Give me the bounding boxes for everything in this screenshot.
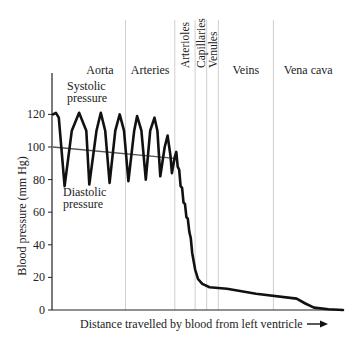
y-tick-label: 100 <box>27 140 45 154</box>
systolic-label-line2: pressure <box>67 91 107 105</box>
region-label: Veins <box>233 63 260 77</box>
y-tick-label: 120 <box>27 107 45 121</box>
y-ticks: 020406080100120 <box>27 107 52 317</box>
y-tick-label: 0 <box>39 303 45 317</box>
blood-pressure-curve <box>53 113 343 310</box>
region-labels: AortaArteriesArteriolesCapillariesVenule… <box>86 18 333 77</box>
region-label: Arteries <box>131 63 170 77</box>
diastolic-label-line2: pressure <box>63 197 103 211</box>
chart-svg: AortaArteriesArteriolesCapillariesVenule… <box>0 0 359 343</box>
x-axis-label: Distance travelled by blood from left ve… <box>80 317 303 331</box>
y-tick-label: 40 <box>33 238 45 252</box>
region-label: Aorta <box>86 63 114 77</box>
blood-pressure-chart: AortaArteriesArteriolesCapillariesVenule… <box>0 0 359 343</box>
y-axis-label: Blood pressure (mm Hg) <box>15 156 29 276</box>
y-tick-label: 60 <box>33 205 45 219</box>
region-label: Arterioles <box>179 21 191 68</box>
y-tick-label: 80 <box>33 173 45 187</box>
x-arrow-icon <box>307 321 328 328</box>
region-label: Venules <box>207 31 219 68</box>
y-tick-label: 20 <box>33 270 45 284</box>
region-label: Vena cava <box>284 63 334 77</box>
